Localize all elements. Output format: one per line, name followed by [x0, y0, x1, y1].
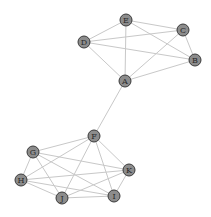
edge-E-D [84, 20, 126, 42]
node-label: E [123, 16, 129, 25]
edge-G-K [33, 152, 129, 170]
node-label: J [59, 194, 63, 203]
node-K: K [123, 164, 135, 176]
edge-A-B [125, 60, 195, 81]
node-label: C [180, 26, 186, 35]
node-label: F [91, 132, 97, 141]
node-B: B [189, 54, 201, 66]
edge-H-K [21, 170, 129, 180]
node-layer: ABCDEFGHIJK [15, 14, 201, 204]
node-J: J [56, 192, 68, 204]
node-label: H [18, 176, 25, 185]
node-label: G [30, 148, 36, 157]
edge-A-F [94, 81, 125, 136]
node-F: F [88, 130, 100, 142]
edge-C-A [125, 30, 183, 81]
node-I: I [108, 190, 120, 202]
graph-canvas: ABCDEFGHIJK [0, 0, 211, 217]
node-label: D [81, 38, 87, 47]
node-H: H [15, 174, 27, 186]
node-label: K [126, 166, 133, 175]
node-label: B [192, 56, 198, 65]
node-label: I [112, 192, 115, 201]
edge-layer [21, 20, 195, 198]
network-graph: ABCDEFGHIJK [0, 0, 211, 217]
node-G: G [27, 146, 39, 158]
node-label: A [121, 77, 128, 86]
node-A: A [119, 75, 131, 87]
node-C: C [177, 24, 189, 36]
edge-E-A [125, 20, 126, 81]
edge-J-I [62, 196, 114, 198]
edge-D-C [84, 30, 183, 42]
node-D: D [78, 36, 90, 48]
node-E: E [120, 14, 132, 26]
edge-F-G [33, 136, 94, 152]
